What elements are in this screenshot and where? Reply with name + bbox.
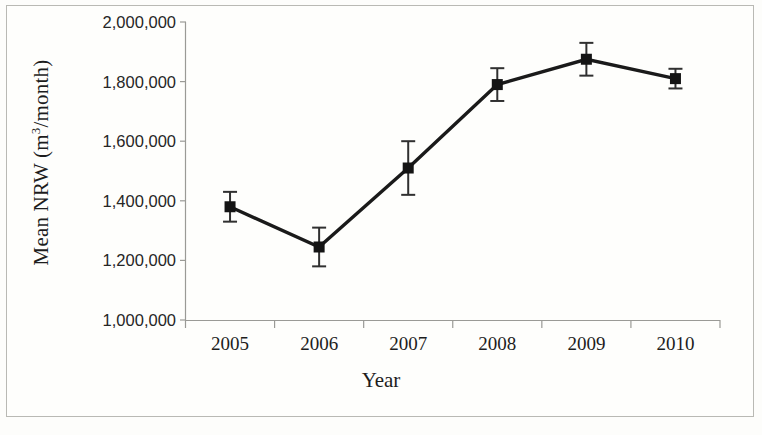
x-axis-tick-label: 2007 [389,333,427,354]
figure-root: Mean NRW (m3/month) Year 1,000,0001,200,… [0,0,762,435]
data-point-marker [492,79,503,90]
data-point-marker [403,163,414,174]
data-point-marker [670,73,681,84]
x-axis-tick-label: 2008 [478,333,516,354]
series-line-mean-nrw [230,59,676,247]
data-point-marker [225,201,236,212]
data-point-marker [581,54,592,65]
y-axis-tick-label: 1,600,000 [103,132,176,150]
y-axis-tick-label: 1,400,000 [103,192,176,210]
data-point-marker [314,241,325,252]
line-chart-plot: 1,000,0001,200,0001,400,0001,600,0001,80… [0,0,762,435]
x-axis-tick-label: 2009 [567,333,605,354]
y-axis-tick-label: 1,800,000 [103,73,176,91]
x-axis-tick-labels: 200520062007200820092010 [211,333,694,354]
y-axis-tick-label: 2,000,000 [103,13,176,31]
x-axis-tick-label: 2006 [300,333,338,354]
x-axis-tick-marks [186,320,721,328]
x-axis-tick-label: 2010 [656,333,694,354]
error-bars [223,43,682,266]
x-axis-tick-label: 2005 [211,333,249,354]
y-axis-tick-labels: 1,000,0001,200,0001,400,0001,600,0001,80… [103,13,176,329]
y-axis-tick-label: 1,200,000 [103,251,176,269]
y-axis-tick-label: 1,000,000 [103,311,176,329]
data-point-markers [225,54,681,253]
